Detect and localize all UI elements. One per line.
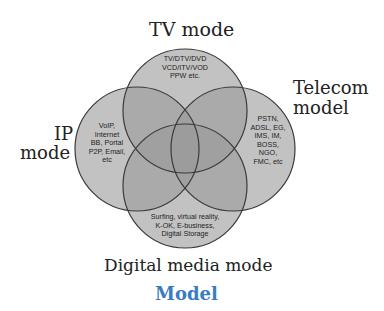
venn-diagram: TV mode IP mode Telecom model Digital me…: [0, 0, 384, 311]
label-ip-mode-line2: mode: [20, 143, 70, 162]
region-tv-content: TV/DTV/DVD VCD/ITV/VOD PPW etc.: [145, 55, 225, 81]
label-telecom-line1: Telecom: [293, 78, 369, 97]
label-ip-mode-line1: IP: [54, 124, 73, 143]
region-digital-content: Surfing, virtual reality, K-OK, E-busine…: [130, 213, 240, 239]
label-digital-media-mode: Digital media mode: [104, 256, 273, 275]
region-ip-content: VoIP, Internet BB, Portal P2P, Email, et…: [76, 122, 138, 165]
figure-caption: Model: [155, 283, 218, 304]
label-telecom-line2: model: [293, 98, 349, 117]
label-tv-mode: TV mode: [149, 20, 234, 39]
region-telecom-content: PSTN, ADSL, EG, IMS, IM, BOSS, NGO, FMC,…: [243, 115, 293, 167]
